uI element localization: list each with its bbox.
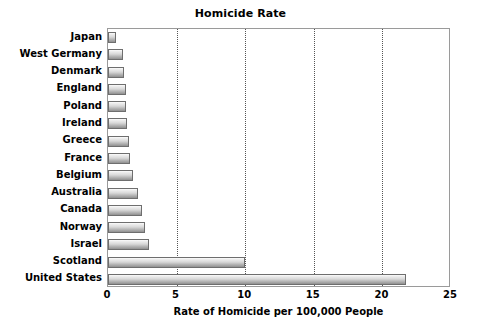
bar-row bbox=[108, 84, 449, 95]
y-label-belgium: Belgium bbox=[0, 170, 102, 180]
x-axis-title: Rate of Homicide per 100,000 People bbox=[107, 306, 450, 317]
y-label-israel: Israel bbox=[0, 239, 102, 249]
y-label-canada: Canada bbox=[0, 204, 102, 214]
homicide-rate-bar-chart: Homicide Rate JapanWest GermanyDenmarkEn… bbox=[0, 0, 481, 330]
bar-canada bbox=[108, 205, 142, 216]
bar-row bbox=[108, 67, 449, 78]
y-label-poland: Poland bbox=[0, 101, 102, 111]
bar-scotland bbox=[108, 257, 245, 268]
bar-row bbox=[108, 239, 449, 250]
bar-row bbox=[108, 170, 449, 181]
x-tick-label-25: 25 bbox=[443, 289, 457, 300]
bar-row bbox=[108, 32, 449, 43]
y-label-greece: Greece bbox=[0, 135, 102, 145]
y-label-denmark: Denmark bbox=[0, 66, 102, 76]
bar-france bbox=[108, 153, 130, 164]
bar-row bbox=[108, 188, 449, 199]
bar-row bbox=[108, 153, 449, 164]
bar-row bbox=[108, 222, 449, 233]
bar-united-states bbox=[108, 274, 406, 285]
x-tick-label-15: 15 bbox=[306, 289, 320, 300]
bar-australia bbox=[108, 188, 138, 199]
chart-title: Homicide Rate bbox=[0, 7, 481, 20]
y-label-united-states: United States bbox=[0, 273, 102, 283]
y-label-ireland: Ireland bbox=[0, 118, 102, 128]
bar-row bbox=[108, 274, 449, 285]
y-label-scotland: Scotland bbox=[0, 256, 102, 266]
bar-greece bbox=[108, 136, 129, 147]
x-axis-tick-labels: 0510152025 bbox=[0, 289, 481, 305]
bar-norway bbox=[108, 222, 145, 233]
y-label-west-germany: West Germany bbox=[0, 49, 102, 59]
x-tick-label-10: 10 bbox=[237, 289, 251, 300]
plot-area bbox=[107, 28, 450, 287]
bar-ireland bbox=[108, 118, 127, 129]
bar-japan bbox=[108, 32, 116, 43]
bar-row bbox=[108, 205, 449, 216]
bar-row bbox=[108, 101, 449, 112]
bar-poland bbox=[108, 101, 126, 112]
bar-row bbox=[108, 136, 449, 147]
y-label-france: France bbox=[0, 153, 102, 163]
y-label-england: England bbox=[0, 83, 102, 93]
y-label-australia: Australia bbox=[0, 187, 102, 197]
bar-row bbox=[108, 118, 449, 129]
bar-denmark bbox=[108, 67, 124, 78]
y-axis-category-labels: JapanWest GermanyDenmarkEnglandPolandIre… bbox=[0, 28, 102, 287]
bar-west-germany bbox=[108, 49, 123, 60]
y-label-norway: Norway bbox=[0, 222, 102, 232]
bar-england bbox=[108, 84, 126, 95]
y-label-japan: Japan bbox=[0, 32, 102, 42]
x-tick-label-5: 5 bbox=[172, 289, 179, 300]
bar-belgium bbox=[108, 170, 133, 181]
bar-row bbox=[108, 257, 449, 268]
bars-layer bbox=[108, 29, 449, 286]
bar-row bbox=[108, 49, 449, 60]
x-tick-label-0: 0 bbox=[104, 289, 111, 300]
x-tick-label-20: 20 bbox=[374, 289, 388, 300]
bar-israel bbox=[108, 239, 149, 250]
